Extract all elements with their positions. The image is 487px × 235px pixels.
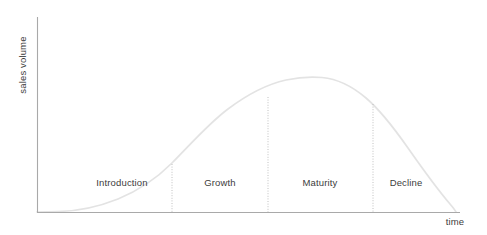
stage-label-decline: Decline [390, 177, 423, 188]
stage-label-growth: Growth [204, 177, 236, 188]
stage-label-introduction: Introduction [96, 177, 147, 188]
stage-label-maturity: Maturity [303, 177, 338, 188]
sales-volume-curve [37, 77, 456, 212]
product-lifecycle-chart: sales volume time Introduction Growth Ma… [0, 0, 487, 235]
x-axis-label: time [446, 216, 465, 227]
y-axis-label: sales volume [17, 36, 28, 93]
chart-canvas [0, 0, 487, 235]
